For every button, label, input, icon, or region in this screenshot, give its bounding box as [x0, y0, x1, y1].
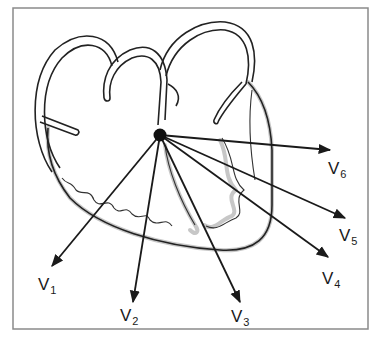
lead-label-v1: V1: [38, 276, 56, 296]
diagram-frame: [13, 8, 368, 329]
lead-label-v5: V5: [339, 227, 357, 247]
electrical-center-dot: [154, 129, 167, 142]
lead-label-v6: V6: [328, 160, 346, 180]
lead-label-v3: V3: [231, 308, 249, 328]
lead-label-v4: V4: [322, 270, 340, 290]
lead-label-v2: V2: [120, 307, 138, 327]
